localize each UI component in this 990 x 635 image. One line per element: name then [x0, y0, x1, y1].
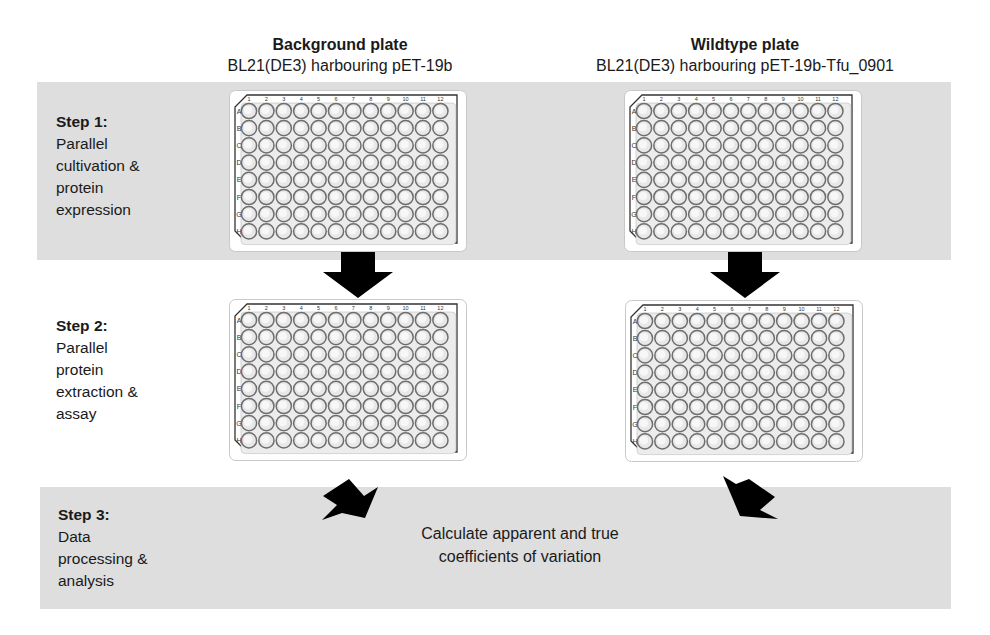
wildtype-plate-title: Wildtype plate: [560, 34, 930, 55]
svg-text:12: 12: [832, 96, 838, 102]
svg-text:4: 4: [695, 96, 698, 102]
svg-text:F: F: [632, 194, 636, 201]
result-text: Calculate apparent and true coefficients…: [370, 522, 670, 568]
svg-text:F: F: [237, 194, 241, 201]
svg-text:6: 6: [729, 96, 732, 102]
background-plate-subtitle: BL21(DE3) harbouring pET-19b: [190, 55, 490, 76]
result-line: Calculate apparent and true: [370, 522, 670, 545]
step-3-line: Data: [58, 526, 148, 548]
svg-text:11: 11: [420, 305, 426, 311]
svg-text:5: 5: [317, 305, 320, 311]
svg-text:9: 9: [387, 305, 390, 311]
svg-text:3: 3: [677, 96, 680, 102]
svg-text:4: 4: [696, 306, 699, 312]
svg-text:7: 7: [747, 96, 750, 102]
wildtype-plate-step-1: 123456789101112ABCDEFGH: [624, 90, 862, 252]
svg-text:1: 1: [247, 305, 250, 311]
svg-text:12: 12: [833, 306, 839, 312]
svg-text:8: 8: [764, 96, 767, 102]
step-2-line: extraction &: [56, 381, 138, 403]
result-line: coefficients of variation: [370, 545, 670, 568]
svg-text:8: 8: [369, 305, 372, 311]
step-2-line: assay: [56, 403, 138, 425]
step-2-line: Parallel: [56, 337, 138, 359]
svg-text:6: 6: [334, 96, 337, 102]
svg-text:1: 1: [643, 306, 646, 312]
svg-text:2: 2: [661, 306, 664, 312]
svg-text:2: 2: [265, 96, 268, 102]
step-3-title: Step 3:: [58, 504, 148, 526]
svg-text:7: 7: [352, 305, 355, 311]
svg-text:7: 7: [352, 96, 355, 102]
svg-text:11: 11: [815, 96, 821, 102]
svg-text:1: 1: [247, 96, 250, 102]
step-1-title: Step 1:: [56, 111, 140, 133]
svg-text:8: 8: [369, 96, 372, 102]
wildtype-plate-step-2: 123456789101112ABCDEFGH: [625, 300, 863, 462]
background-plate-step-1: 123456789101112ABCDEFGH: [229, 90, 467, 252]
svg-text:5: 5: [712, 96, 715, 102]
svg-text:F: F: [237, 403, 241, 410]
down-arrow-icon: [323, 252, 393, 302]
svg-text:10: 10: [798, 96, 804, 102]
svg-text:3: 3: [282, 305, 285, 311]
svg-text:12: 12: [437, 96, 443, 102]
step-1-line: cultivation &: [56, 155, 140, 177]
svg-text:8: 8: [765, 306, 768, 312]
step-3-label: Step 3: Data processing & analysis: [58, 504, 148, 592]
diagonal-down-left-arrow-icon: [722, 470, 782, 530]
svg-text:6: 6: [334, 305, 337, 311]
svg-text:4: 4: [300, 96, 303, 102]
background-plate-title: Background plate: [190, 34, 490, 55]
step-1-line: protein: [56, 177, 140, 199]
svg-text:9: 9: [782, 96, 785, 102]
svg-text:12: 12: [437, 305, 443, 311]
background-plate-header: Background plate BL21(DE3) harbouring pE…: [190, 34, 490, 76]
svg-text:11: 11: [420, 96, 426, 102]
step-3-line: analysis: [58, 570, 148, 592]
step-3-line: processing &: [58, 548, 148, 570]
step-2-title: Step 2:: [56, 315, 138, 337]
svg-text:2: 2: [660, 96, 663, 102]
step-1-label: Step 1: Parallel cultivation & protein e…: [56, 111, 140, 221]
wildtype-plate-subtitle: BL21(DE3) harbouring pET-19b-Tfu_0901: [560, 55, 930, 76]
svg-text:10: 10: [799, 306, 805, 312]
svg-text:9: 9: [783, 306, 786, 312]
svg-text:6: 6: [730, 306, 733, 312]
step-1-line: expression: [56, 199, 140, 221]
svg-text:9: 9: [387, 96, 390, 102]
step-1-line: Parallel: [56, 133, 140, 155]
svg-text:5: 5: [317, 96, 320, 102]
svg-text:7: 7: [748, 306, 751, 312]
svg-text:2: 2: [265, 305, 268, 311]
svg-text:3: 3: [678, 306, 681, 312]
svg-text:4: 4: [300, 305, 303, 311]
svg-text:11: 11: [816, 306, 822, 312]
svg-text:F: F: [633, 404, 637, 411]
down-arrow-icon: [710, 252, 780, 302]
svg-text:1: 1: [642, 96, 645, 102]
step-2-label: Step 2: Parallel protein extraction & as…: [56, 315, 138, 425]
diagonal-down-right-arrow-icon: [320, 470, 380, 530]
step-2-line: protein: [56, 359, 138, 381]
background-plate-step-2: 123456789101112ABCDEFGH: [229, 299, 467, 461]
svg-text:3: 3: [282, 96, 285, 102]
wildtype-plate-header: Wildtype plate BL21(DE3) harbouring pET-…: [560, 34, 930, 76]
svg-text:5: 5: [713, 306, 716, 312]
svg-text:10: 10: [403, 96, 409, 102]
svg-text:10: 10: [403, 305, 409, 311]
